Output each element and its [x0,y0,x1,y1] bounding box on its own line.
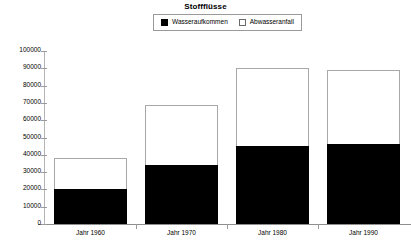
y-tick-label: 10000 [23,203,41,210]
bar-segment-wasseraufkommen[interactable] [236,146,309,224]
y-tick-mark [41,120,47,121]
x-tick-mark [227,224,228,229]
x-axis-label: Jahr 1980 [227,230,318,237]
y-tick-label: 70000 [23,99,41,106]
y-tick-mark [41,155,47,156]
y-tick-mark [41,51,47,52]
x-axis-line [38,224,411,225]
y-tick-mark [41,138,47,139]
bar-column[interactable] [327,70,400,224]
legend-swatch-filled-icon [161,19,168,26]
y-tick-mark [41,68,47,69]
y-tick-label: 100000 [19,47,41,54]
y-tick-mark [41,172,47,173]
chart-title: Stoffflüsse [0,2,411,11]
bar-column[interactable] [145,105,218,224]
y-tick-label: 20000 [23,185,41,192]
legend-entry-abwasseranfall: Abwasseranfall [239,19,294,26]
y-tick-label: 50000 [23,134,41,141]
x-axis-label: Jahr 1970 [136,230,227,237]
x-axis-label: Jahr 1960 [45,230,136,237]
legend-swatch-hollow-icon [239,19,246,26]
y-tick-mark [41,224,47,225]
y-tick-label: 40000 [23,151,41,158]
bar-segment-wasseraufkommen[interactable] [54,189,127,224]
bar-segment-wasseraufkommen[interactable] [145,165,218,224]
x-tick-mark [136,224,137,229]
y-tick-label: 60000 [23,116,41,123]
y-tick-mark [41,189,47,190]
x-axis-label: Jahr 1990 [318,230,409,237]
y-tick-mark [41,103,47,104]
bar-column[interactable] [236,68,309,224]
x-tick-mark [318,224,319,229]
bar-column[interactable] [54,158,127,224]
y-tick-label: 80000 [23,82,41,89]
y-tick-mark [41,207,47,208]
legend-label-abwasseranfall: Abwasseranfall [250,19,294,26]
y-tick-mark [41,86,47,87]
legend-label-wasseraufkommen: Wasseraufkommen [172,19,228,26]
chart-legend: Wasseraufkommen Abwasseranfall [153,14,302,31]
plot-area: 0100002000030000400005000060000700008000… [0,44,411,252]
bar-segment-wasseraufkommen[interactable] [327,144,400,224]
legend-entry-wasseraufkommen: Wasseraufkommen [161,19,228,26]
y-tick-label: 30000 [23,168,41,175]
y-tick-label: 90000 [23,64,41,71]
